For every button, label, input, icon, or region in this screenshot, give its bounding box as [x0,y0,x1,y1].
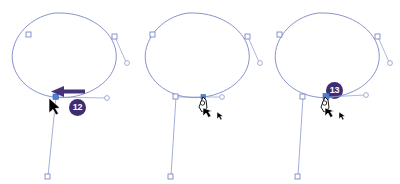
handle-endpoint-bottom[interactable] [364,93,369,98]
endpoint-bottom-square[interactable] [168,174,173,179]
handle-line-bottom [326,95,365,97]
anchor-top-left[interactable] [150,32,155,37]
ellipse-path[interactable] [145,13,249,98]
anchor-top-left[interactable] [277,32,282,37]
arrow-cursor-icon [49,98,60,115]
anchor-top-right[interactable] [112,34,117,39]
anchor-top-right[interactable] [245,34,250,39]
handle-endpoint-top-right[interactable] [258,61,263,66]
anchor-bottom-left[interactable] [173,94,178,99]
step-badge: 12 [69,99,86,116]
handle-endpoint-bottom[interactable] [105,96,110,101]
handle-endpoint-top-right[interactable] [125,61,130,66]
ellipse-path[interactable] [275,13,379,98]
panel-step-12: 12 [0,0,133,184]
ellipse-path[interactable] [12,13,116,98]
open-path-segment[interactable] [298,97,303,176]
panel-step-13: 13 [133,0,266,184]
handle-endpoint-bottom[interactable] [220,95,225,100]
open-path-segment[interactable] [171,97,176,176]
handle-endpoint-top-right[interactable] [388,61,393,66]
anchor-bottom-left[interactable] [300,94,305,99]
endpoint-bottom-square[interactable] [45,174,50,179]
anchor-top-right[interactable] [375,34,380,39]
pen-tool-cursor-icon [321,97,345,120]
anchor-top-left[interactable] [26,32,31,37]
endpoint-bottom-square[interactable] [295,174,300,179]
pen-tool-cursor-icon [199,97,223,120]
panel-step-final [266,0,399,184]
figure-canvas: 12 13 [0,0,400,184]
anchor-selected[interactable] [53,94,59,100]
